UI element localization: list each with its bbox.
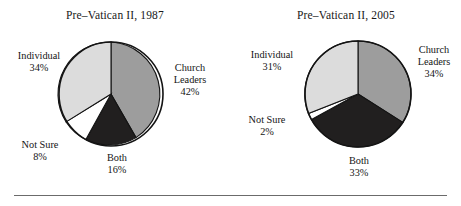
pie-label-individual-name-2005: Individual (251, 49, 293, 60)
pie-label-individual-name-1987: Individual (18, 50, 60, 61)
pie-label-individual-1987: Individual 34% (6, 50, 72, 74)
pie-label-not-sure-pct-2005: 2% (237, 126, 297, 138)
pie-label-not-sure-name-2005: Not Sure (249, 114, 286, 125)
pie-chart-figure: Pre–Vatican II, 1987 Individual 34% Not … (0, 0, 461, 206)
pie-label-church-leaders-pct-1987: 42% (165, 86, 215, 98)
pie-label-not-sure-pct-1987: 8% (10, 151, 70, 163)
figure-divider-rule (14, 195, 447, 196)
pie-label-not-sure-1987: Not Sure 8% (10, 139, 70, 163)
pie-label-church-leaders-name1-1987: Church (175, 62, 205, 73)
pie-label-church-leaders-1987: Church Leaders 42% (165, 62, 215, 99)
chart-panel-1987: Pre–Vatican II, 1987 Individual 34% Not … (0, 0, 230, 196)
pie-label-both-2005: Both 33% (337, 155, 381, 179)
pie-label-both-name-2005: Both (349, 155, 369, 166)
pie-label-both-pct-1987: 16% (95, 164, 139, 176)
pie-label-individual-pct-2005: 31% (239, 61, 305, 73)
pie-label-both-name-1987: Both (107, 152, 127, 163)
pie-label-individual-2005: Individual 31% (239, 49, 305, 73)
pie-label-church-leaders-name2-1987: Leaders (165, 74, 215, 86)
pie-label-church-leaders-pct-2005: 34% (409, 68, 459, 80)
pie-label-not-sure-name-1987: Not Sure (22, 139, 59, 150)
pie-label-church-leaders-name1-2005: Church (419, 44, 449, 55)
pie-label-individual-pct-1987: 34% (6, 62, 72, 74)
pie-label-not-sure-2005: Not Sure 2% (237, 114, 297, 138)
pie-label-church-leaders-2005: Church Leaders 34% (409, 44, 459, 81)
pie-label-both-pct-2005: 33% (337, 167, 381, 179)
chart-panel-2005: Pre–Vatican II, 2005 Individual 31% Not … (231, 0, 461, 196)
pie-label-both-1987: Both 16% (95, 152, 139, 176)
pie-label-church-leaders-name2-2005: Leaders (409, 56, 459, 68)
